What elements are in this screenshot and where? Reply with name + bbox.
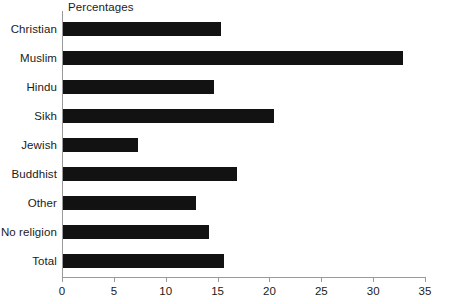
- x-axis-tick-label: 10: [159, 285, 172, 298]
- x-axis-tick-mark: [425, 277, 426, 282]
- x-axis-tick-mark: [166, 277, 167, 282]
- bar-category-label: Hindu: [26, 80, 57, 94]
- bar-category-label: Muslim: [20, 51, 57, 65]
- bar: [63, 109, 274, 123]
- bar-row: Hindu: [62, 80, 63, 109]
- x-axis-tick-label: 35: [419, 285, 432, 298]
- x-axis-tick-label: 5: [111, 285, 117, 298]
- bar-category-label: Other: [28, 196, 57, 210]
- x-axis-tick-label: 20: [263, 285, 276, 298]
- bar-row: Christian: [62, 22, 63, 51]
- bar-row: Sikh: [62, 109, 63, 138]
- bar-category-label: Jewish: [21, 138, 57, 152]
- x-axis-tick-mark: [62, 277, 63, 282]
- chart-title: Percentages: [68, 1, 134, 14]
- bar-category-label: Total: [32, 254, 57, 268]
- bar-row: Buddhist: [62, 167, 63, 196]
- bar-row: Jewish: [62, 138, 63, 167]
- bar-chart: Percentages ChristianMuslimHinduSikhJewi…: [0, 0, 450, 304]
- x-axis-tick-label: 15: [211, 285, 224, 298]
- x-axis-tick-mark: [373, 277, 374, 282]
- bar-category-label: Sikh: [34, 109, 57, 123]
- value-axis-line: [62, 277, 426, 278]
- bar-category-label: Buddhist: [11, 167, 57, 181]
- bar: [63, 51, 403, 65]
- x-axis-tick-mark: [218, 277, 219, 282]
- bar: [63, 80, 214, 94]
- bar-row: No religion: [62, 225, 63, 254]
- bar: [63, 254, 224, 268]
- bar-category-label: Christian: [11, 22, 57, 36]
- x-axis-tick-mark: [321, 277, 322, 282]
- bar: [63, 22, 221, 36]
- bar: [63, 196, 196, 210]
- bar-category-label: No religion: [1, 225, 57, 239]
- bar: [63, 167, 237, 181]
- x-axis-tick-mark: [269, 277, 270, 282]
- x-axis-tick-label: 30: [367, 285, 380, 298]
- bar: [63, 225, 209, 239]
- bar: [63, 138, 138, 152]
- bar-row: Muslim: [62, 51, 63, 80]
- x-axis-tick-label: 25: [315, 285, 328, 298]
- x-axis-tick-label: 0: [59, 285, 65, 298]
- x-axis-tick-mark: [114, 277, 115, 282]
- bar-row: Other: [62, 196, 63, 225]
